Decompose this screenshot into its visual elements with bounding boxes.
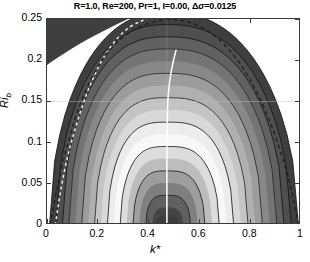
x-tick-label: 0 <box>26 227 66 239</box>
x-tick-labels: 00.20.40.60.81 <box>0 0 310 262</box>
x-axis-title: k* <box>0 243 310 255</box>
figure-container: R=1.0, Re=200, Pr=1, I=0.00, Δσ=0.0125 <box>0 0 310 262</box>
x-tick-label: 1 <box>280 227 310 239</box>
x-tick-label: 0.4 <box>128 227 168 239</box>
y-axis-title: Rib <box>0 93 13 108</box>
x-tick-label: 0.8 <box>229 227 269 239</box>
y-axis-title-sub: b <box>4 93 13 97</box>
x-tick-label: 0.6 <box>178 227 218 239</box>
y-axis-title-base: Ri <box>0 98 10 108</box>
x-tick-label: 0.2 <box>77 227 117 239</box>
